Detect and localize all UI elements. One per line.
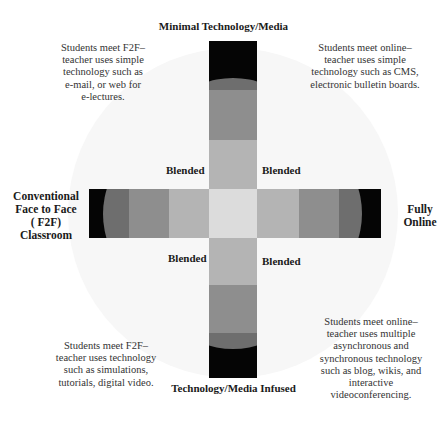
description-line: technology such as CMS, xyxy=(300,66,430,78)
axis-label-right-line: Online xyxy=(394,216,446,229)
description-line: Students meet F2F– xyxy=(48,42,158,54)
description-top-left: Students meet F2F– teacher uses simple t… xyxy=(48,42,158,103)
description-line: Students meet online– xyxy=(310,316,432,328)
axis-label-top: Minimal Technology/Media xyxy=(0,20,447,32)
vertical-arm-bottom xyxy=(209,238,257,378)
band-black-bottom xyxy=(209,238,257,349)
band-mid-top xyxy=(209,90,257,140)
description-line: asynchronous and xyxy=(310,340,432,352)
description-line: teacher uses multiple xyxy=(310,328,432,340)
blended-label-bottom-left: Blended xyxy=(168,252,207,264)
description-line: e-lectures. xyxy=(48,91,158,103)
description-bottom-right: Students meet online– teacher uses multi… xyxy=(310,316,432,401)
band-black-right xyxy=(257,189,362,238)
center-square xyxy=(209,189,257,238)
blended-label-bottom-right: Blended xyxy=(262,255,301,267)
axis-label-left-line: Classroom xyxy=(4,229,88,242)
blended-label-top-right: Blended xyxy=(262,164,301,176)
description-line: technology such as xyxy=(48,66,158,78)
horizontal-arm-right xyxy=(257,189,381,238)
description-line: teacher uses technology xyxy=(48,352,164,364)
axis-label-left: Conventional Face to Face ( F2F) Classro… xyxy=(4,190,88,242)
axis-label-right: Fully Online xyxy=(394,203,446,229)
description-line: videoconferencing. xyxy=(310,389,432,401)
description-line: Students meet online– xyxy=(300,42,430,54)
description-line: Students meet F2F– xyxy=(48,340,164,352)
band-light-left xyxy=(169,189,209,238)
axis-label-left-line: Face to Face xyxy=(4,203,88,216)
description-line: interactive xyxy=(310,377,432,389)
description-top-right: Students meet online– teacher uses simpl… xyxy=(300,42,430,91)
description-line: tutorials, digital video. xyxy=(48,377,164,389)
axis-label-right-line: Fully xyxy=(394,203,446,216)
description-line: synchronous technology xyxy=(310,353,432,365)
vertical-arm-top xyxy=(209,41,257,189)
description-line: such as blog, wikis, and xyxy=(310,365,432,377)
description-line: teacher uses simple xyxy=(48,54,158,66)
description-line: teacher uses simple xyxy=(300,54,430,66)
band-light-top xyxy=(209,140,257,189)
description-line: such as simulations, xyxy=(48,364,164,376)
axis-label-left-line: Conventional xyxy=(4,190,88,203)
axis-label-left-line: ( F2F) xyxy=(4,216,88,229)
description-bottom-left: Students meet F2F– teacher uses technolo… xyxy=(48,340,164,389)
description-line: electronic bulletin boards. xyxy=(300,79,430,91)
blended-label-top-left: Blended xyxy=(166,164,205,176)
horizontal-arm-left xyxy=(89,189,209,238)
band-mid-left xyxy=(129,189,169,238)
description-line: e-mail, or web for xyxy=(48,79,158,91)
